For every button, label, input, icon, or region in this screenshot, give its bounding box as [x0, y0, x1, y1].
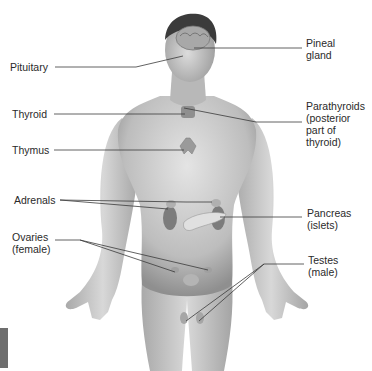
- left-testis: [180, 312, 188, 324]
- label-ovaries: Ovaries (female): [12, 231, 51, 255]
- label-testes: Testes (male): [308, 254, 338, 278]
- label-adrenals: Adrenals: [14, 194, 55, 206]
- label-pituitary: Pituitary: [10, 61, 48, 73]
- uterus: [183, 274, 199, 286]
- pituitary-leader: [55, 56, 183, 67]
- right-adrenal: [211, 199, 221, 207]
- label-pancreas: Pancreas (islets): [307, 207, 351, 231]
- brain-cutaway: [176, 26, 210, 50]
- thyroid-gland: [181, 106, 195, 118]
- page-edge-tab: [0, 328, 8, 368]
- endocrine-diagram: Pituitary Thyroid Thymus Adrenals Ovarie…: [0, 0, 372, 371]
- left-adrenal: [166, 200, 176, 208]
- torso: [118, 96, 256, 296]
- label-pineal-gland: Pineal gland: [306, 37, 335, 61]
- label-thymus: Thymus: [12, 144, 49, 156]
- left-kidney: [163, 206, 177, 230]
- left-ovary: [171, 267, 179, 273]
- label-thyroid: Thyroid: [12, 108, 47, 120]
- label-parathyroids: Parathyroids (posterior part of thyroid): [306, 100, 365, 148]
